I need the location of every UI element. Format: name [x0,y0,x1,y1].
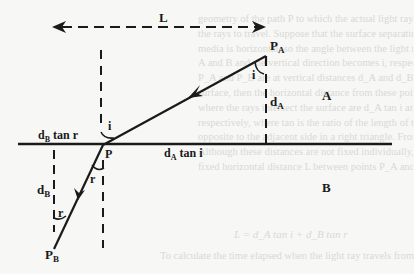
label-angle-i-top: i [252,68,256,82]
label-medium-A: A [322,88,332,103]
label-angle-r-bottom: r [58,206,64,220]
showthrough-equation: L = d_A tan i + d_B tan r [233,228,348,240]
label-PB: PB [45,247,59,264]
label-angle-i-P: i [108,119,112,133]
label-angle-r-P: r [90,172,96,186]
label-L: L [159,10,168,25]
angle-arc-i-top [255,62,264,74]
label-medium-B: B [322,180,331,195]
label-dA-tan-i: dA tan i [164,146,203,162]
label-dB: dB [37,182,50,199]
incident-ray [103,56,266,145]
label-PA: PA [270,38,285,55]
refracted-ray-arrow-icon [74,188,85,200]
label-dA: dA [270,94,284,111]
label-P: P [105,147,112,161]
label-dB-tan-r: dB tan r [38,128,79,144]
